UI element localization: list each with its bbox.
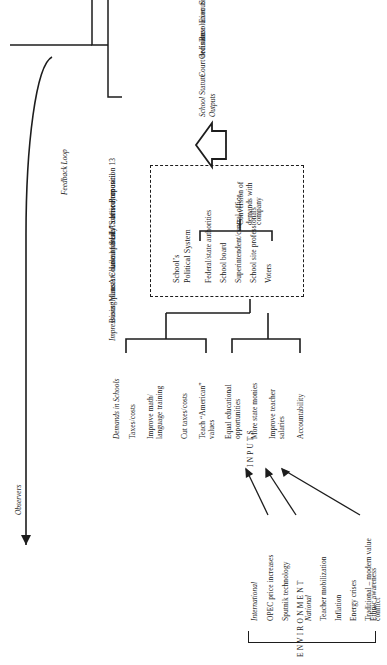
observers-label: Observers [14,485,23,515]
diagram-canvas: E N V I R O N M E N T International OPEC… [0,0,387,665]
feedback-loop-curve [0,0,387,665]
figure-page: E N V I R O N M E N T International OPEC… [0,0,387,665]
